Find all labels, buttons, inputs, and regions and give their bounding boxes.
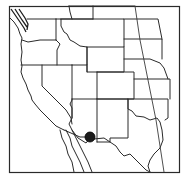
co-border — [97, 72, 134, 99]
ca-nv-border — [42, 65, 72, 124]
wa-or-border — [22, 40, 56, 42]
map-svg — [0, 0, 184, 177]
ok-border — [128, 99, 168, 120]
or-id-border — [56, 40, 60, 65]
mt-border — [61, 6, 124, 47]
wy-border — [87, 47, 124, 72]
puget-sound-water — [11, 9, 28, 32]
nm-border — [97, 99, 128, 142]
meridian-line — [135, 6, 164, 172]
baja-coast-west — [60, 130, 74, 172]
map-container: Western United States — [0, 0, 184, 177]
location-marker[interactable] — [85, 132, 95, 142]
ut-border — [72, 65, 97, 99]
us-mexico-border-nm — [94, 138, 110, 142]
map-frame — [10, 7, 180, 173]
id-border — [56, 19, 87, 65]
nd-border — [124, 19, 162, 39]
ks-border — [134, 79, 170, 99]
tx-border — [110, 99, 163, 172]
